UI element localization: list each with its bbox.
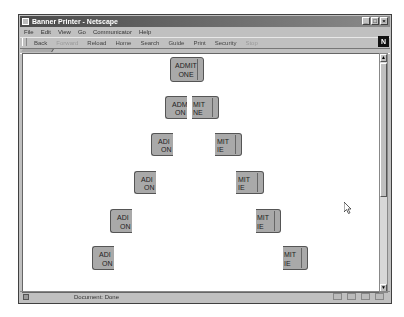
forward-button[interactable]: Forward xyxy=(56,40,78,46)
print-button[interactable]: Print xyxy=(193,40,205,46)
component-bar xyxy=(333,293,384,300)
menu-file[interactable]: File xyxy=(24,28,34,37)
browser-window: Banner Printer - Netscape _ □ × File Edi… xyxy=(18,14,392,304)
security-lock-icon[interactable] xyxy=(23,294,29,300)
ticket-right-half: MIT IE xyxy=(283,246,308,270)
minimize-button[interactable]: _ xyxy=(362,17,370,25)
ticket-full: ADMIT ONE xyxy=(170,57,204,82)
status-text: Document: Done xyxy=(74,292,119,302)
ticket-left-half: ADI ON xyxy=(151,133,173,156)
menu-view[interactable]: View xyxy=(58,28,71,37)
netscape-logo-icon[interactable]: N xyxy=(378,36,389,47)
ticket-stub xyxy=(257,173,263,192)
ticket-right-half: MIT IE xyxy=(215,133,242,156)
ticket-left-half: ADM ON xyxy=(165,96,187,119)
mouse-cursor-icon xyxy=(344,202,352,214)
ticket-stub xyxy=(274,211,280,231)
navigation-toolbar: Back Forward Reload Home Search Guide Pr… xyxy=(20,37,390,47)
close-button[interactable]: × xyxy=(380,17,388,25)
page-content xyxy=(22,53,380,293)
reload-button[interactable]: Reload xyxy=(87,40,106,46)
ticket-left-half: ADI ON xyxy=(92,246,114,270)
ticket-left-half: ADI ON xyxy=(110,209,132,233)
ticket-stub xyxy=(301,248,307,268)
search-button[interactable]: Search xyxy=(140,40,159,46)
back-button[interactable]: Back xyxy=(34,40,47,46)
menu-communicator[interactable]: Communicator xyxy=(93,28,132,37)
discussion-icon[interactable] xyxy=(361,293,370,300)
composer-icon[interactable] xyxy=(375,293,384,300)
menu-go[interactable]: Go xyxy=(78,28,86,37)
vertical-scrollbar[interactable]: ▲ ▼ xyxy=(379,53,388,293)
netscape-app-icon xyxy=(22,18,29,25)
guide-button[interactable]: Guide xyxy=(168,40,184,46)
stop-button[interactable]: Stop xyxy=(245,40,257,46)
ticket-left-half: ADI ON xyxy=(134,171,156,194)
mail-icon[interactable] xyxy=(347,293,356,300)
navigator-icon[interactable] xyxy=(333,293,342,300)
scroll-up-button[interactable]: ▲ xyxy=(380,54,387,62)
ticket-stub xyxy=(235,135,241,154)
ticket-right-half: MIT NE xyxy=(192,96,219,119)
menu-bar: File Edit View Go Communicator Help xyxy=(21,28,151,37)
window-title: Banner Printer - Netscape xyxy=(32,18,118,25)
menu-help[interactable]: Help xyxy=(139,28,151,37)
menu-edit[interactable]: Edit xyxy=(41,28,51,37)
ticket-right-half: MIT IE xyxy=(256,209,281,233)
location-bar-tab[interactable] xyxy=(21,49,54,52)
scroll-thumb[interactable] xyxy=(380,63,387,197)
ticket-right-half: MIT IE xyxy=(236,171,264,194)
security-button[interactable]: Security xyxy=(215,40,237,46)
ticket-stub xyxy=(212,98,218,117)
ticket-stub xyxy=(197,59,203,80)
status-bar: Document: Done xyxy=(20,291,390,302)
maximize-button[interactable]: □ xyxy=(371,17,379,25)
home-button[interactable]: Home xyxy=(115,40,131,46)
title-bar: Banner Printer - Netscape _ □ × xyxy=(20,16,390,27)
